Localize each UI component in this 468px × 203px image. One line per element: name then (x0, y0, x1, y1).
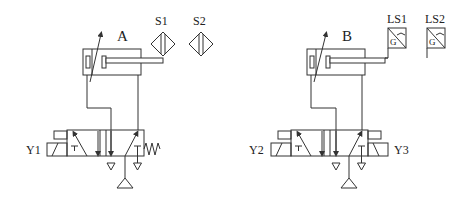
cylinder-label-b: B (342, 28, 352, 44)
cylinder-label-a: A (117, 28, 128, 44)
switch-inner-label-ls2: G (429, 37, 436, 47)
pneumatic-diagram: A S1 S2 (0, 0, 468, 203)
system-b: B LS1 G LS2 G (249, 12, 445, 188)
valve-b (271, 130, 388, 156)
exhaust-icon (107, 163, 115, 170)
solenoid-label-y1: Y1 (26, 143, 41, 157)
solenoid-label-y2: Y2 (249, 143, 264, 157)
proximity-sensor-s1-icon (151, 32, 175, 56)
switch-label-ls2: LS2 (425, 12, 445, 26)
exhaust-icon (332, 163, 340, 170)
valve-a (47, 130, 160, 156)
sensor-label-s2: S2 (193, 14, 206, 28)
supply-icon (341, 178, 357, 188)
switch-label-ls1: LS1 (387, 12, 407, 26)
system-a: A S1 S2 (26, 14, 213, 188)
exhaust-icon (134, 163, 142, 170)
manual-override-icon (368, 131, 381, 139)
solenoid-label-y3: Y3 (394, 143, 409, 157)
supply-icon (117, 178, 133, 188)
switch-inner-label-ls1: G (390, 37, 397, 47)
spring-icon (144, 143, 160, 155)
manual-override-icon (278, 131, 291, 139)
pipe-a-left (87, 75, 111, 152)
exhaust-icon (358, 163, 366, 170)
manual-override-icon (54, 131, 67, 139)
sensor-label-s1: S1 (155, 14, 168, 28)
proximity-sensor-s2-icon (189, 32, 213, 56)
